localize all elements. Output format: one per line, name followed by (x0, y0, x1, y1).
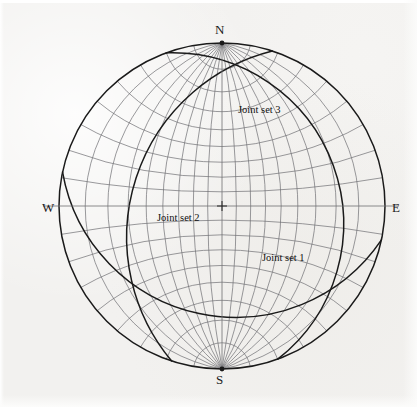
axis-label-south: S (216, 372, 224, 388)
annotation-joint-set-1: Joint set 1 (262, 252, 305, 263)
axis-label-north: N (215, 22, 225, 38)
annotation-joint-set-3: Joint set 3 (238, 104, 281, 115)
axis-label-west: W (42, 200, 55, 216)
stereonet-figure: N S W E Joint set 3 Joint set 2 Joint se… (0, 0, 417, 407)
pole-dot-north (220, 41, 225, 46)
stereonet-plot (0, 0, 417, 407)
pole-dot-south (220, 367, 225, 372)
axis-label-east: E (392, 200, 400, 216)
annotation-joint-set-2: Joint set 2 (157, 212, 200, 223)
center-cross-marker (217, 201, 227, 211)
